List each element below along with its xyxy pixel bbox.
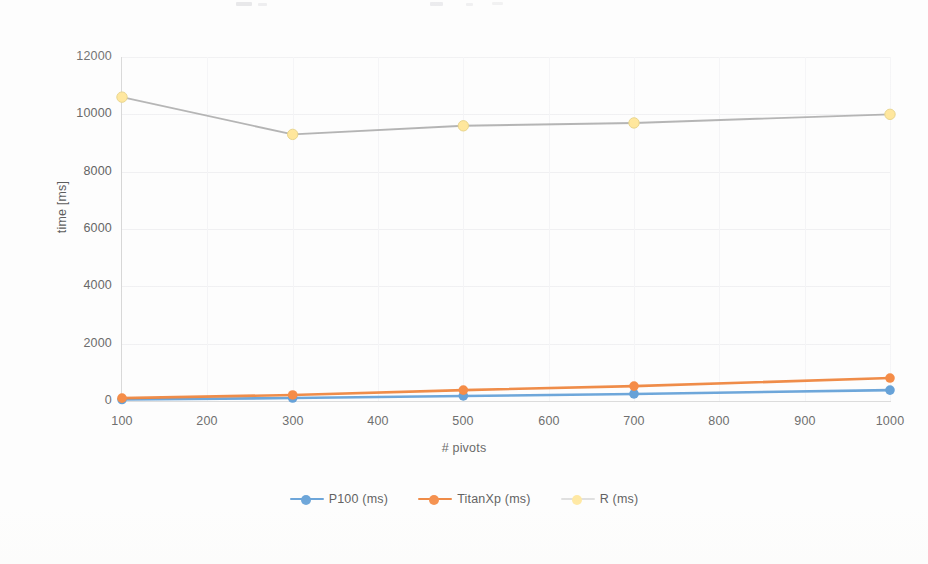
legend-item-r[interactable]: R (ms) — [561, 492, 639, 506]
data-point-marker — [287, 129, 297, 139]
series-R — [117, 92, 895, 140]
legend-label-r: R (ms) — [600, 492, 639, 506]
legend-item-titanxp[interactable]: TitanXp (ms) — [418, 492, 530, 506]
data-point-marker — [885, 373, 895, 383]
series-layer — [0, 0, 928, 564]
data-point-marker — [885, 109, 895, 119]
data-point-marker — [629, 381, 639, 391]
legend-marker-r-icon — [561, 493, 595, 505]
data-point-marker — [288, 390, 298, 400]
data-point-marker — [117, 393, 127, 403]
data-point-marker — [458, 121, 468, 131]
series-line — [122, 97, 890, 134]
chart-legend: P100 (ms) TitanXp (ms) R (ms) — [0, 492, 928, 506]
line-chart: 12000 10000 8000 6000 4000 2000 0 100 20… — [0, 0, 928, 564]
legend-item-p100[interactable]: P100 (ms) — [290, 492, 388, 506]
legend-marker-p100-icon — [290, 493, 324, 505]
legend-label-titanxp: TitanXp (ms) — [457, 492, 530, 506]
data-point-marker — [629, 118, 639, 128]
data-point-marker — [459, 385, 469, 395]
legend-label-p100: P100 (ms) — [329, 492, 388, 506]
data-point-marker — [885, 385, 895, 395]
legend-marker-titanxp-icon — [418, 493, 452, 505]
data-point-marker — [117, 92, 127, 102]
